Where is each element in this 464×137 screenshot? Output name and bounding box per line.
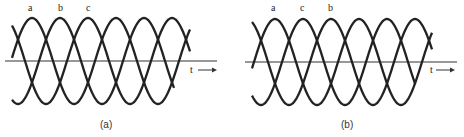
phase-label-2: c — [300, 3, 304, 13]
panel-a: a b c t (a) — [0, 0, 232, 137]
arrow-head-icon — [212, 68, 217, 73]
time-axis-label: t — [190, 65, 193, 75]
arrow-head-icon — [450, 68, 455, 73]
panel-caption: (b) — [341, 120, 353, 130]
time-axis-label: t — [430, 65, 433, 75]
three-phase-waveforms-a — [0, 0, 232, 137]
phase-label-3: c — [86, 3, 90, 13]
phase-label-1: a — [28, 3, 32, 13]
phase-label-3: b — [328, 3, 333, 13]
panel-caption: (a) — [100, 120, 112, 130]
phase-label-2: b — [58, 3, 63, 13]
phase-label-1: a — [271, 3, 275, 13]
panel-b: a c b t (b) — [232, 0, 464, 137]
